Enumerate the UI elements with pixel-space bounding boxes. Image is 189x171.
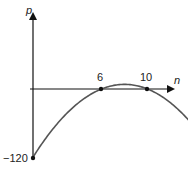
- point-y-intercept: [31, 156, 35, 160]
- point-root-6: [99, 87, 103, 91]
- y-axis-label: p: [25, 4, 32, 16]
- x-axis-label: n: [174, 74, 180, 86]
- chart: p n 6 10 −120: [0, 0, 188, 171]
- parabola-curve: [33, 84, 189, 158]
- point-root-10: [145, 87, 149, 91]
- tick-label-6: 6: [97, 71, 103, 83]
- tick-label-10: 10: [140, 71, 152, 83]
- y-intercept-label: −120: [3, 152, 28, 164]
